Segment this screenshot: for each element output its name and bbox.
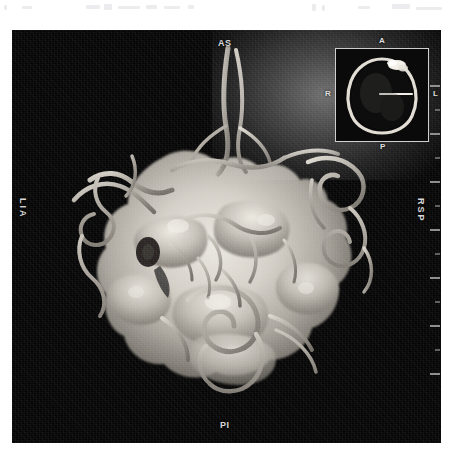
scan-artifact bbox=[164, 6, 180, 9]
ruler-tick bbox=[430, 373, 440, 375]
ruler-tick bbox=[430, 181, 440, 183]
localizer-label-left: L bbox=[433, 89, 438, 98]
ruler-tick bbox=[430, 85, 440, 87]
localizer-label-anterior: A bbox=[379, 36, 385, 45]
orientation-label-superior: AS bbox=[218, 38, 232, 48]
scan-artifact bbox=[146, 5, 157, 9]
ruler-tick bbox=[430, 277, 440, 279]
orientation-label-left: LIA bbox=[18, 198, 27, 219]
ruler-tick bbox=[430, 133, 440, 135]
localizer-slice-image bbox=[336, 49, 428, 141]
scan-artifact bbox=[322, 5, 325, 11]
scan-artifact bbox=[392, 4, 410, 9]
scan-artifact bbox=[312, 4, 316, 11]
orientation-label-inferior: PI bbox=[220, 420, 230, 430]
ruler-tick bbox=[435, 349, 440, 351]
scan-artifact bbox=[358, 6, 370, 9]
ruler-tick bbox=[435, 157, 440, 159]
ruler-tick bbox=[430, 229, 440, 231]
ruler-tick bbox=[435, 109, 440, 111]
scan-artifact bbox=[4, 5, 7, 10]
localizer-svg bbox=[336, 49, 428, 141]
scan-artifact bbox=[118, 6, 140, 9]
localizer-label-right: R bbox=[325, 89, 331, 98]
ruler-tick bbox=[435, 205, 440, 207]
scan-artifact bbox=[22, 6, 32, 9]
scale-ruler bbox=[428, 85, 440, 395]
scan-artifact bbox=[104, 4, 112, 10]
orientation-label-right: RSP bbox=[416, 198, 425, 223]
localizer-label-posterior: P bbox=[380, 142, 385, 151]
localizer-inset-panel[interactable] bbox=[335, 48, 429, 142]
scan-artifact bbox=[86, 5, 100, 9]
ruler-tick bbox=[435, 253, 440, 255]
ruler-tick bbox=[430, 325, 440, 327]
ruler-tick bbox=[435, 301, 440, 303]
scan-artifact bbox=[416, 7, 442, 10]
image-viewport[interactable]: AS PI LIA RSP bbox=[12, 30, 441, 443]
scan-artifact bbox=[188, 5, 194, 9]
top-scan-artifact-strip bbox=[0, 0, 453, 16]
